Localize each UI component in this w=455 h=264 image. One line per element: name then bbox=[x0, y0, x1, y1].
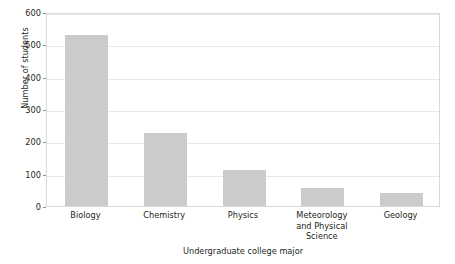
x-label-line: Physics bbox=[204, 210, 283, 221]
x-tick-label: Biology bbox=[46, 210, 125, 221]
bar bbox=[65, 35, 108, 206]
y-tick-mark bbox=[43, 78, 46, 79]
x-label-line: Biology bbox=[46, 210, 125, 221]
x-tick-label: Geology bbox=[361, 210, 440, 221]
x-tick-label: Physics bbox=[204, 210, 283, 221]
y-tick-label: 600 bbox=[1, 9, 41, 17]
y-tick-label: 300 bbox=[1, 106, 41, 114]
y-tick-mark bbox=[43, 175, 46, 176]
x-tick-label: Chemistry bbox=[125, 210, 204, 221]
bars-layer bbox=[47, 14, 439, 206]
y-tick-mark bbox=[43, 13, 46, 14]
y-tick-mark bbox=[43, 207, 46, 208]
bar bbox=[301, 188, 344, 206]
x-label-line: Science bbox=[282, 231, 361, 242]
x-label-line: Chemistry bbox=[125, 210, 204, 221]
y-tick-label: 0 bbox=[1, 203, 41, 211]
bar bbox=[223, 170, 266, 206]
bar-chart: Number of students 0100200300400500600 B… bbox=[0, 0, 455, 264]
y-tick-label: 400 bbox=[1, 74, 41, 82]
y-tick-label: 100 bbox=[1, 171, 41, 179]
y-tick-mark bbox=[43, 45, 46, 46]
y-tick-label: 500 bbox=[1, 41, 41, 49]
x-label-line: Geology bbox=[361, 210, 440, 221]
y-tick-label: 200 bbox=[1, 138, 41, 146]
y-axis-title: Number of students bbox=[20, 0, 30, 138]
y-tick-mark bbox=[43, 142, 46, 143]
bar bbox=[380, 193, 423, 206]
x-tick-label: Meteorologyand PhysicalScience bbox=[282, 210, 361, 242]
x-label-line: Meteorology bbox=[282, 210, 361, 221]
bar bbox=[144, 133, 187, 206]
plot-area bbox=[46, 13, 440, 207]
x-axis-labels: BiologyChemistryPhysicsMeteorologyand Ph… bbox=[46, 210, 440, 246]
x-axis-title: Undergraduate college major bbox=[46, 246, 440, 256]
x-label-line: and Physical bbox=[282, 221, 361, 232]
y-tick-mark bbox=[43, 110, 46, 111]
